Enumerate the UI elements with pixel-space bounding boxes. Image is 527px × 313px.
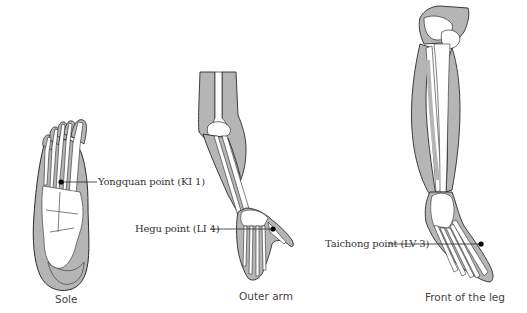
yongquan-point-marker — [58, 179, 63, 184]
outer-arm-caption: Outer arm — [239, 290, 293, 302]
taichong-point-label: Taichong point (LV 3) — [325, 238, 429, 249]
sole-illustration — [33, 120, 97, 291]
sole-caption: Sole — [55, 293, 77, 305]
front-of-leg-caption: Front of the leg — [425, 291, 505, 303]
outer-arm-illustration — [199, 72, 294, 280]
yongquan-point-label: Yongquan point (KI 1) — [98, 176, 205, 187]
hegu-point-label: Hegu point (LI 4) — [135, 223, 219, 234]
taichong-point-marker — [478, 241, 483, 246]
acupressure-diagram — [0, 0, 527, 313]
hegu-point-marker — [270, 226, 275, 231]
